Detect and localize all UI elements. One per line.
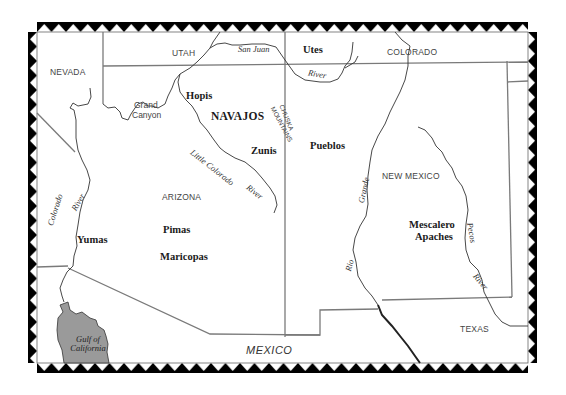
label-apaches: Apaches <box>415 232 453 243</box>
label-arizona: ARIZONA <box>162 193 201 202</box>
label-mexico: MEXICO <box>246 345 292 356</box>
label-hopis: Hopis <box>186 91 212 102</box>
label-mescalero: Mescalero <box>409 220 455 231</box>
label-utes: Utes <box>303 45 323 56</box>
label-zunis: Zunis <box>251 146 277 157</box>
label-nevada: NEVADA <box>50 68 86 77</box>
label-grand-canyon-2: Canyon <box>132 111 161 120</box>
label-san-juan: San Juan <box>238 45 269 54</box>
label-gulf-of-california: Gulf of California <box>70 335 106 354</box>
label-new-mexico: NEW MEXICO <box>382 172 440 181</box>
label-pueblos: Pueblos <box>310 141 345 152</box>
label-navajos: NAVAJOS <box>211 111 264 123</box>
label-colorado: COLORADO <box>387 48 437 57</box>
label-pecos: Pecos <box>466 222 478 243</box>
label-pimas: Pimas <box>163 225 190 236</box>
label-yumas: Yumas <box>77 235 108 246</box>
label-gulf-line-2: California <box>70 344 106 353</box>
decorative-border <box>28 22 537 373</box>
label-maricopas: Maricopas <box>160 252 208 263</box>
label-grand-canyon-1: Grand <box>134 101 158 110</box>
label-texas: TEXAS <box>460 325 489 334</box>
label-utah: UTAH <box>172 49 195 58</box>
